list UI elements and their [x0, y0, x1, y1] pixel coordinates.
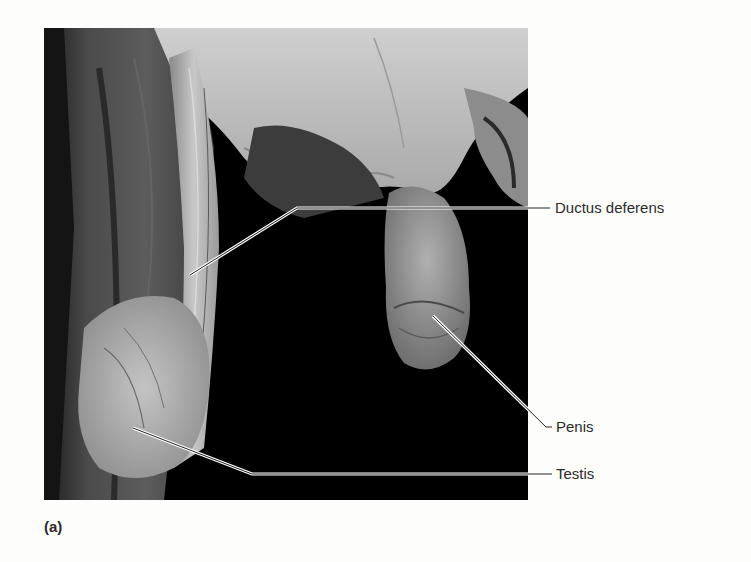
label-ductus-deferens: Ductus deferens [555, 199, 664, 217]
label-testis: Testis [556, 465, 594, 483]
figure: Ductus deferens Penis Testis (a) [0, 0, 751, 562]
photo-rendering [44, 28, 528, 500]
dissection-photo [44, 28, 528, 500]
label-penis: Penis [556, 418, 594, 436]
panel-label: (a) [44, 518, 62, 535]
